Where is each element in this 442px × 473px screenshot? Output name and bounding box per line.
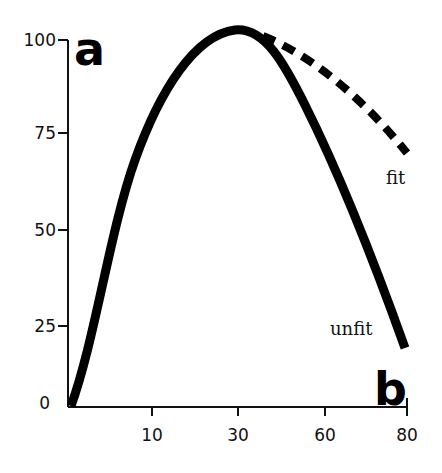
- panel-label-b: b: [374, 362, 407, 416]
- x-tick-label-10: 10: [141, 425, 163, 445]
- x-tick-labels: 10 30 60 80: [141, 425, 418, 445]
- y-tick-label-25: 25: [34, 316, 56, 336]
- fit-curve: [263, 36, 407, 153]
- y-tick-label-0: 0: [39, 393, 50, 413]
- y-tick-labels: 100 75 50 25 0: [24, 30, 56, 413]
- x-tick-label-30: 30: [227, 425, 249, 445]
- unfit-label: unfit: [330, 318, 373, 339]
- x-tick-label-80: 80: [396, 425, 418, 445]
- unfit-curve: [71, 30, 405, 406]
- chart: 100 75 50 25 0 10 30 60 80 fit unfit a b: [0, 0, 442, 473]
- panel-label-a: a: [74, 22, 105, 76]
- y-ticks: [58, 40, 68, 326]
- y-tick-label-50: 50: [34, 220, 56, 240]
- y-tick-label-75: 75: [34, 123, 56, 143]
- fit-label: fit: [386, 167, 406, 188]
- x-tick-label-60: 60: [314, 425, 336, 445]
- y-tick-label-100: 100: [24, 30, 56, 50]
